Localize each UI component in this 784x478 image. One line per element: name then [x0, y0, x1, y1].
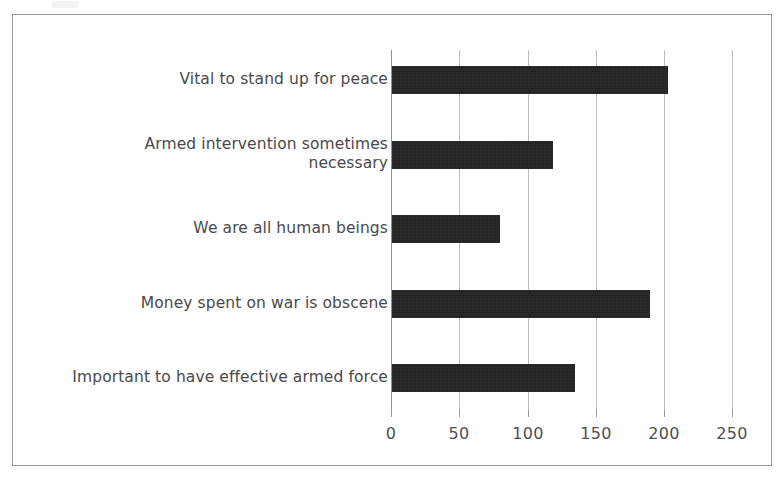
x-tick-label-200: 200	[634, 424, 694, 443]
tickmark-250	[732, 410, 733, 417]
category-label-3: Money spent on war is obscene	[18, 294, 388, 313]
tickmark-0	[391, 410, 392, 417]
x-tick-label-250: 250	[702, 424, 762, 443]
category-label-0-line1: Vital to stand up for peace	[18, 70, 388, 89]
gridline-100	[528, 50, 529, 410]
bar-3	[392, 290, 650, 318]
x-tick-label-150: 150	[566, 424, 626, 443]
tickmark-50	[459, 410, 460, 417]
category-label-4-line1: Important to have effective armed force	[18, 368, 388, 387]
gridline-150	[596, 50, 597, 410]
category-label-2: We are all human beings	[18, 219, 388, 238]
category-label-4: Important to have effective armed force	[18, 368, 388, 387]
tickmark-100	[528, 410, 529, 417]
category-label-3-line1: Money spent on war is obscene	[18, 294, 388, 313]
category-label-0: Vital to stand up for peace	[18, 70, 388, 89]
bar-1	[392, 141, 553, 169]
bar-chart: 0 50 100 150 200 250 Vital to stand up f…	[0, 0, 784, 478]
tickmark-200	[664, 410, 665, 417]
category-label-1: Armed intervention sometimes necessary	[18, 135, 388, 173]
x-tick-label-100: 100	[498, 424, 558, 443]
bar-4	[392, 364, 575, 392]
category-label-2-line1: We are all human beings	[18, 219, 388, 238]
category-label-1-line2: necessary	[18, 154, 388, 173]
bar-2	[392, 215, 500, 243]
bar-0	[392, 66, 668, 94]
x-tick-label-50: 50	[429, 424, 489, 443]
gridline-250	[732, 50, 733, 410]
tickmark-150	[596, 410, 597, 417]
x-tick-label-0: 0	[361, 424, 421, 443]
gridline-200	[664, 50, 665, 410]
category-label-1-line1: Armed intervention sometimes	[18, 135, 388, 154]
